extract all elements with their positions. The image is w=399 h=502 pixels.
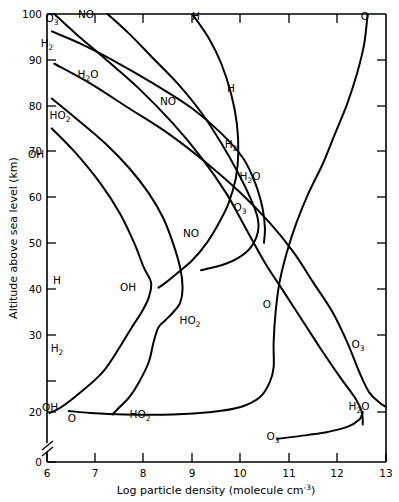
ytick-label-50: 50 [29,237,42,249]
h-top-label: H [192,10,200,22]
curve-HO2-upper [52,99,183,415]
xtick-label-13: 13 [379,467,392,479]
o-top-label: O [361,10,369,22]
no-top-label: NO [78,8,94,20]
curve-label-group: O3NOHOH2H2ONOHHO2H2OHH2OO3NOHOHOHO2H2O3O… [28,8,370,445]
xtick-label-8: 8 [140,467,147,479]
xtick-label-10: 10 [233,467,246,479]
y-tick-labels: 100 90 80 70 60 50 40 30 20 0 [22,8,42,468]
curve-group [49,14,386,439]
o3-bottom-label: O3 [266,430,279,445]
oh-mid-label: OH [120,281,136,293]
x-tick-labels: 6 7 8 9 10 11 12 13 [44,467,393,479]
ytick-label-30: 30 [29,329,42,341]
x-axis-title-tail: ) [311,484,315,497]
y-axis-ticks [47,14,56,462]
y-axis-right-ticks [377,60,386,412]
o3-mid-label: O3 [233,201,246,216]
ytick-label-90: 90 [29,54,42,66]
o-low-label: O [68,412,76,424]
ho2-low-label: HO2 [130,408,151,423]
ytick-label-80: 80 [29,100,42,112]
no-mid-label: NO [160,95,176,107]
no-low-label: NO [183,227,199,239]
h-low-label: H [53,274,61,286]
ytick-label-40: 40 [29,283,42,295]
h-mid-label: H [227,82,235,94]
oh-top-label: OH [28,148,44,160]
x-axis-top-ticks [95,14,337,23]
o3-right-label: O3 [351,338,364,353]
oh-low-label: OH [42,401,58,413]
curve-O3-upper [54,14,362,424]
curve-O3-lower [277,412,363,439]
xtick-label-7: 7 [92,467,99,479]
h2o-top-label: H2O [78,68,99,83]
h2o-right-label: H2O [349,400,370,415]
chart-svg: 100 90 80 70 60 50 40 30 20 0 6 7 8 9 10… [0,0,399,502]
o-mid-label: O [263,298,271,310]
atmospheric-species-profile-chart: 100 90 80 70 60 50 40 30 20 0 6 7 8 9 10… [0,0,399,502]
ytick-label-0: 0 [35,456,42,468]
curve-O-right [69,14,368,415]
ytick-label-20: 20 [29,406,42,418]
ytick-label-100: 100 [22,8,42,20]
x-axis-title-main: Log particle density (molecule cm [117,484,304,497]
curve-H2O [54,64,386,407]
h2-low-label: H2 [51,342,64,357]
x-axis-title: Log particle density (molecule cm-3) [117,483,315,497]
xtick-label-12: 12 [330,467,343,479]
plot-frame [42,14,386,462]
ytick-label-60: 60 [29,191,42,203]
xtick-label-6: 6 [44,467,51,479]
x-axis-ticks [47,453,386,462]
xtick-label-11: 11 [282,467,295,479]
curve-OH [49,128,151,413]
y-axis-title: Altitude above sea level (km) [7,157,20,319]
ho2-mid-label: HO2 [180,314,201,329]
xtick-label-9: 9 [189,467,196,479]
